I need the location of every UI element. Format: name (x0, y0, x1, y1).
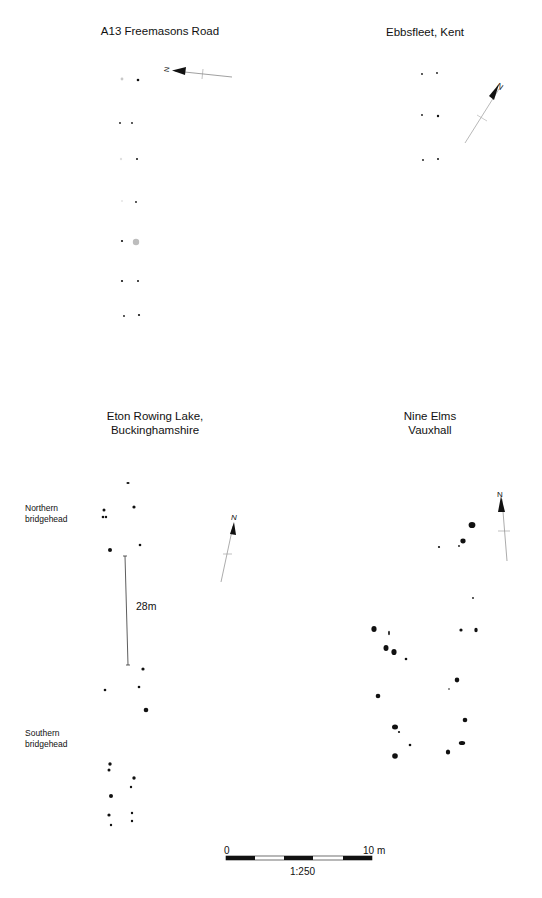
truncated-caption (0, 892, 542, 898)
north-arrow-icon (221, 522, 236, 582)
site-plans-drawing (0, 0, 542, 898)
eton-posts (102, 482, 149, 826)
scale-bar (226, 856, 372, 860)
a13-posts (119, 78, 140, 317)
north-arrow-icon (498, 496, 510, 561)
nine-elms-posts (371, 522, 477, 759)
north-arrow-icon (465, 84, 499, 143)
span-dimension-line (123, 556, 130, 665)
north-arrow-icon (172, 67, 232, 79)
ebbsfleet-posts (421, 72, 439, 161)
